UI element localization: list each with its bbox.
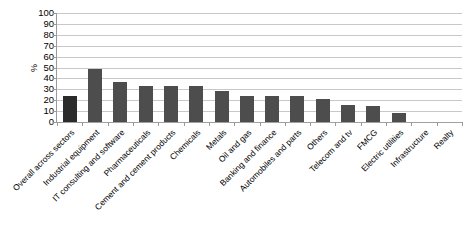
x-axis-category-labels: Overall across sectorsIndustrial equipme… <box>0 0 472 249</box>
y-axis-tick-mark <box>53 35 57 36</box>
bar-chart: % 1009080706050403020100 Overall across … <box>0 0 472 249</box>
y-axis-tick-mark <box>53 122 57 123</box>
x-axis-category-label: Overall across sectors <box>0 128 76 219</box>
y-axis-tick-mark <box>53 24 57 25</box>
y-axis-tick-mark <box>53 111 57 112</box>
y-axis-tick-mark <box>53 68 57 69</box>
y-axis-tick-mark <box>53 89 57 90</box>
y-axis-tick-mark <box>53 13 57 14</box>
y-axis-tick-mark <box>53 78 57 79</box>
y-axis-tick-mark <box>53 46 57 47</box>
y-axis-tick-mark <box>53 100 57 101</box>
y-axis-tick-mark <box>53 57 57 58</box>
